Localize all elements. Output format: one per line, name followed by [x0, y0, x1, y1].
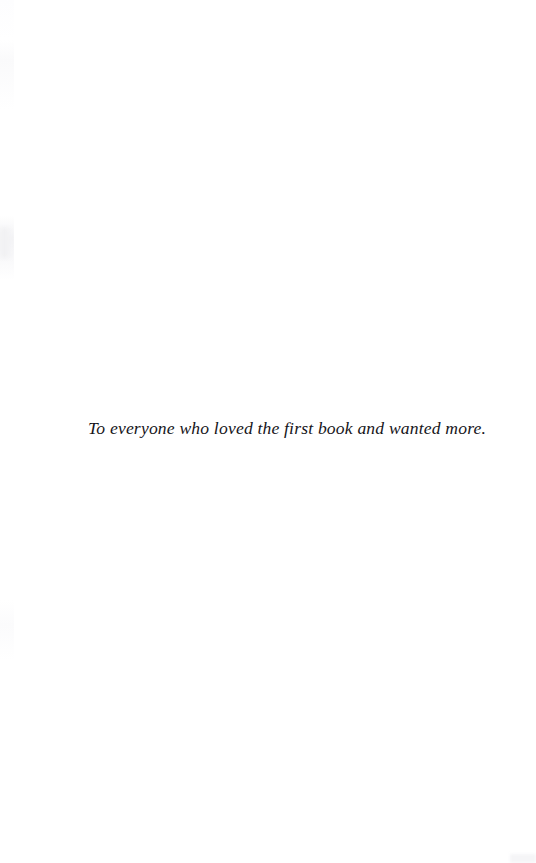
scan-corner-artifact — [510, 854, 536, 863]
dedication-text: To everyone who loved the first book and… — [88, 417, 448, 440]
book-page: To everyone who loved the first book and… — [0, 0, 536, 863]
scan-edge-artifact — [0, 0, 14, 863]
scan-smudge-artifact — [0, 228, 9, 258]
